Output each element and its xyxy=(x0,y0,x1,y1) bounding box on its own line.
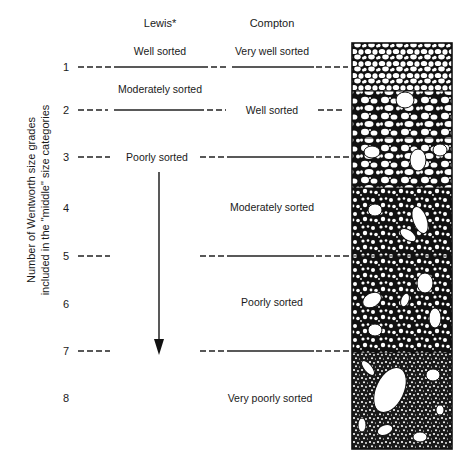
diagram-graphics xyxy=(0,0,476,471)
sediment-column xyxy=(352,43,452,449)
arrow-head-icon xyxy=(154,339,164,355)
